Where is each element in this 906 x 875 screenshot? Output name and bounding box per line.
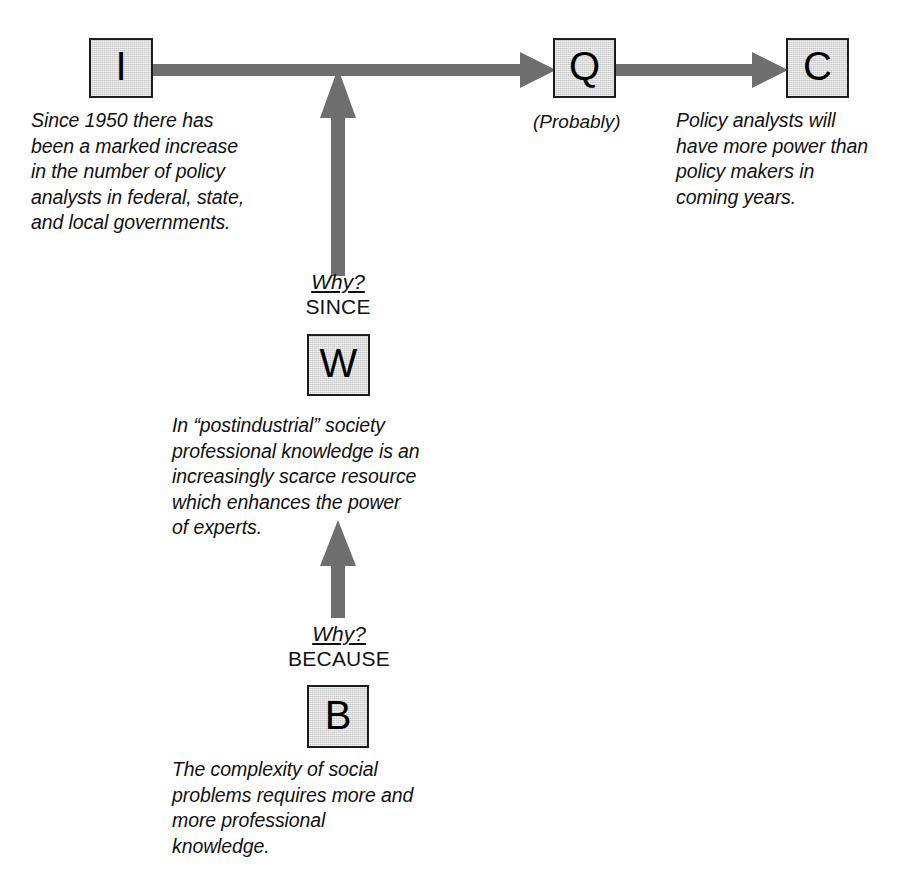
text-backing: The complexity of social problems requir… bbox=[172, 757, 472, 859]
node-box-information[interactable]: I bbox=[89, 38, 153, 98]
node-letter-warrant: W bbox=[320, 343, 358, 383]
node-letter-claim: C bbox=[803, 46, 832, 86]
node-box-backing[interactable]: B bbox=[307, 685, 369, 748]
node-box-warrant[interactable]: W bbox=[307, 334, 370, 396]
text-information: Since 1950 there has been a marked incre… bbox=[31, 108, 296, 236]
node-letter-backing: B bbox=[325, 695, 352, 735]
connector-connective-because: BECAUSE bbox=[268, 646, 410, 671]
arrow-qualifier-to-claim bbox=[612, 52, 790, 88]
node-letter-qualifier: Q bbox=[569, 46, 600, 86]
arrow-warrant-to-main-line bbox=[320, 66, 356, 276]
connector-question-because: Why? bbox=[268, 622, 410, 646]
connector-backing-link: Why? BECAUSE bbox=[268, 622, 410, 671]
node-box-qualifier[interactable]: Q bbox=[553, 38, 616, 98]
connector-connective-since: SINCE bbox=[278, 294, 398, 319]
connector-warrant-link: Why? SINCE bbox=[278, 270, 398, 319]
connector-question-since: Why? bbox=[278, 270, 398, 294]
text-warrant: In “postindustrial” society professional… bbox=[172, 413, 472, 541]
node-letter-information: I bbox=[115, 46, 126, 86]
text-claim: Policy analysts will have more power tha… bbox=[676, 108, 906, 210]
diagram-canvas: I Q C W B Since 1950 there has been a ma… bbox=[0, 0, 906, 875]
text-qualifier: (Probably) bbox=[533, 110, 663, 134]
node-box-claim[interactable]: C bbox=[786, 38, 849, 98]
